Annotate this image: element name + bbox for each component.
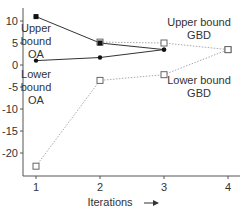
svg-text:Lower: Lower [21,68,51,80]
series-line [36,50,228,167]
svg-text:GBD: GBD [187,29,211,41]
svg-text:OA: OA [28,48,45,60]
data-point-marker [225,47,231,53]
annotation-upper-bound-gbd: Upper bound GBD [167,16,231,41]
annotation-lower-bound-gbd: Lower bound GBD [167,74,231,99]
x-ticks: 1234 [33,176,231,193]
y-tick-label: -15 [2,125,18,137]
x-axis-label: Iterations [87,196,133,208]
svg-text:bound: bound [21,35,52,47]
y-tick-label: 5 [12,37,18,49]
svg-text:Upper: Upper [21,22,51,34]
svg-text:Lower bound: Lower bound [167,74,231,86]
y-tick-label: -5 [8,81,18,93]
x-tick-label: 4 [225,181,231,193]
annotation-upper-bound-oa: Upper bound OA [21,22,52,60]
x-tick-label: 2 [97,181,103,193]
y-tick-label: -20 [2,147,18,159]
svg-text:GBD: GBD [187,87,211,99]
svg-text:Upper bound: Upper bound [167,16,231,28]
arrow-right-icon [144,200,159,206]
y-tick-label: 0 [12,59,18,71]
x-tick-label: 3 [161,181,167,193]
data-point-marker [161,40,167,46]
data-point-marker [34,14,39,19]
data-point-marker [97,77,103,83]
svg-text:bound: bound [21,81,52,93]
data-point-marker [161,72,167,78]
data-point-marker [98,55,102,59]
y-tick-label: -10 [2,103,18,115]
y-tick-label: 10 [6,15,18,27]
chart: 1050-5-10-15-20 1234 Upper bound OA Lowe… [0,0,246,212]
x-tick-label: 1 [33,181,39,193]
svg-text:OA: OA [28,94,45,106]
data-point-marker [98,41,103,46]
data-point-marker [162,47,166,51]
data-point-marker [33,163,39,169]
annotation-lower-bound-oa: Lower bound OA [21,68,52,106]
